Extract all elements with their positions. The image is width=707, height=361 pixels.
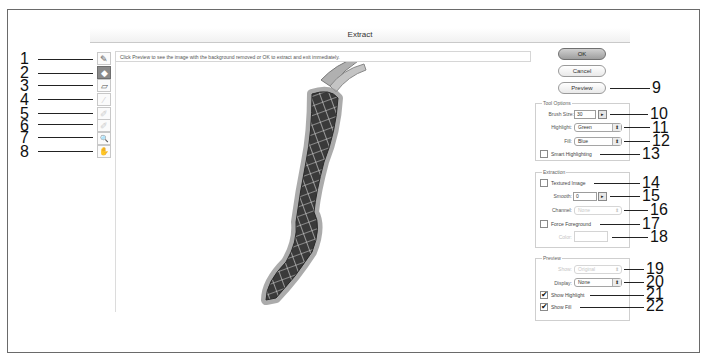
force-foreground-checkbox[interactable] <box>540 220 548 228</box>
paint-bucket-icon: ◆ <box>101 68 108 78</box>
callout-line-6 <box>38 124 93 125</box>
callout-line-18 <box>612 237 648 238</box>
callout-line-2 <box>38 73 93 74</box>
highlight-label: Highlight: <box>538 123 572 131</box>
callout-line-15 <box>610 196 640 197</box>
callout-8: 8 <box>20 145 29 159</box>
show-highlight-checkbox[interactable]: ✔ <box>540 291 548 299</box>
title-bar: Extract <box>90 28 630 43</box>
callout-line-1 <box>38 59 93 60</box>
force-foreground-label: Force Foreground <box>551 220 591 228</box>
channel-value: None <box>578 207 590 213</box>
edge-highlighter-tool-button[interactable]: ✎ <box>97 52 111 65</box>
callout-line-4 <box>38 99 93 100</box>
callout-line-5 <box>38 113 93 114</box>
dropdown-arrows-icon: ⬍ <box>612 124 621 131</box>
callout-line-8 <box>38 151 93 152</box>
zoom-tool-button[interactable]: 🔍 <box>97 132 111 145</box>
callout-line-17 <box>600 224 640 225</box>
smooth-label: Smooth: <box>540 192 572 200</box>
smooth-slider-toggle[interactable]: ▸ <box>598 192 607 201</box>
edge-touchup-icon: ✐ <box>100 121 108 131</box>
callout-18: 18 <box>650 230 668 244</box>
callout-line-11 <box>624 127 650 128</box>
smooth-field[interactable]: 0 <box>573 192 597 201</box>
preview-button[interactable]: Preview <box>558 82 606 94</box>
extracted-object-image <box>116 62 532 312</box>
ok-button[interactable]: OK <box>558 48 606 60</box>
channel-label: Channel: <box>540 206 572 214</box>
dropdown-arrows-icon: ⬍ <box>613 207 621 214</box>
dropdown-arrows-icon: ⬍ <box>612 138 621 145</box>
callout-line-21 <box>590 295 644 296</box>
show-value: Original <box>578 266 595 272</box>
highlight-color-select[interactable]: Green ⬍ <box>574 123 622 132</box>
fill-label: Fill: <box>538 137 572 145</box>
show-fill-checkbox[interactable]: ✔ <box>540 303 548 311</box>
show-label: Show: <box>538 265 572 273</box>
cancel-button[interactable]: Cancel <box>558 65 606 77</box>
hand-icon: ✋ <box>99 147 109 156</box>
triangle-right-icon: ▸ <box>601 193 604 199</box>
callout-22: 22 <box>646 299 664 313</box>
eraser-icon: ▱ <box>101 81 108 91</box>
instruction-bar: Click Preview to see the image with the … <box>115 51 531 62</box>
callout-13: 13 <box>642 147 660 161</box>
show-fill-label: Show Fill <box>551 303 571 311</box>
show-select[interactable]: Original ⬍ <box>574 265 622 274</box>
color-label: Color: <box>540 233 572 241</box>
show-highlight-label: Show Highlight <box>551 291 584 299</box>
tool-options-title: Tool Options <box>542 100 572 107</box>
fill-tool-button[interactable]: ◆ <box>97 66 111 79</box>
smart-highlighting-checkbox[interactable] <box>540 150 548 158</box>
brush-size-slider-toggle[interactable]: ▸ <box>598 110 607 119</box>
dropdown-arrows-icon: ⬍ <box>613 266 621 273</box>
callout-line-13 <box>600 154 640 155</box>
callout-line-10 <box>610 114 648 115</box>
eyedropper-tool-button[interactable]: ⁄ <box>97 93 111 106</box>
callout-line-22 <box>580 307 644 308</box>
display-select[interactable]: None ⬍ <box>574 278 622 287</box>
preview-title: Preview <box>542 255 562 262</box>
callout-line-7 <box>38 137 93 138</box>
preview-canvas[interactable] <box>115 62 531 312</box>
display-label: Display: <box>538 279 572 287</box>
eyedropper-icon: ⁄ <box>103 95 105 105</box>
extraction-title: Extraction <box>542 169 566 176</box>
brush-size-label: Brush Size: <box>538 110 574 118</box>
magnifier-icon: 🔍 <box>100 135 109 143</box>
display-value: None <box>578 279 590 285</box>
dialog-title: Extract <box>90 30 630 39</box>
fill-color-select[interactable]: Blue ⬍ <box>574 137 622 146</box>
eraser-tool-button[interactable]: ▱ <box>97 79 111 92</box>
brush-size-field[interactable]: 30 <box>574 110 596 119</box>
highlight-color-value: Green <box>578 124 592 130</box>
force-foreground-color-swatch[interactable] <box>574 231 608 242</box>
callout-line-20 <box>624 282 644 283</box>
callout-line-19 <box>624 269 644 270</box>
callout-9: 9 <box>652 81 661 95</box>
edge-touchup-tool-button[interactable]: ✐ <box>97 119 111 132</box>
dropdown-arrows-icon: ⬍ <box>612 279 621 286</box>
hand-tool-button[interactable]: ✋ <box>97 145 111 158</box>
callout-line-14 <box>594 183 640 184</box>
pen-icon: ✎ <box>100 54 108 64</box>
checkmark-icon: ✔ <box>541 302 548 311</box>
textured-image-checkbox[interactable] <box>540 179 548 187</box>
textured-image-label: Textured Image <box>551 179 585 187</box>
triangle-right-icon: ▸ <box>601 111 604 117</box>
callout-line-9 <box>610 88 650 89</box>
callout-line-3 <box>38 85 93 86</box>
channel-select[interactable]: None ⬍ <box>574 206 622 215</box>
callout-line-16 <box>624 210 648 211</box>
callout-line-12 <box>624 141 650 142</box>
checkmark-icon: ✔ <box>541 290 548 299</box>
fill-color-value: Blue <box>578 138 588 144</box>
cleanup-brush-icon: ✐ <box>100 109 108 119</box>
smart-highlighting-label: Smart Highlighting <box>551 150 592 158</box>
